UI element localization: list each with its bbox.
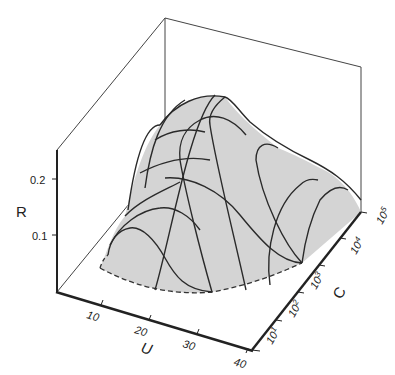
svg-text:105: 105 [372,205,392,226]
svg-text:103: 103 [306,270,326,291]
x-axis-line [56,292,253,351]
svg-text:101: 101 [262,325,282,346]
y-axis-label: C [329,283,349,301]
svg-text:104: 104 [346,235,366,256]
surface-plot: R 0.2 0.1 10 20 30 40 U 101 102 103 104 … [0,0,395,375]
z-axis-label: R [16,203,27,220]
x-tick-30: 30 [181,337,197,352]
x-tick-40: 40 [232,355,248,370]
svg-text:102: 102 [284,298,304,319]
x-axis-label: U [139,339,154,358]
x-tick-10: 10 [85,308,101,323]
x-tick-20: 20 [132,323,149,338]
z-tick-0.2: 0.2 [30,174,45,186]
z-tick-0.1: 0.1 [32,230,47,242]
